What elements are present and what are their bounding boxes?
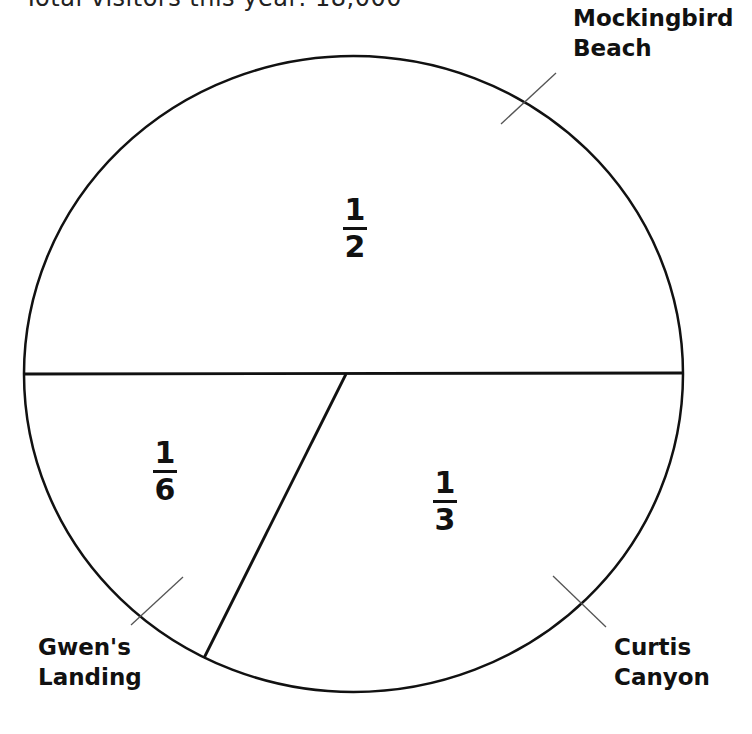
label-mockingbird-beach: Mockingbird Beach (573, 3, 734, 63)
divider-horizontal (24, 373, 683, 374)
label-line: Beach (573, 33, 734, 63)
pie-chart (0, 0, 752, 734)
fraction-denominator: 2 (335, 230, 375, 263)
fraction-numerator: 1 (343, 194, 367, 230)
fraction-gwens: 1 6 (145, 437, 185, 506)
fraction-numerator: 1 (433, 467, 457, 503)
label-line: Landing (38, 662, 142, 692)
label-gwens-landing: Gwen's Landing (38, 632, 142, 692)
label-line: Canyon (614, 662, 710, 692)
fraction-numerator: 1 (153, 437, 177, 473)
fraction-denominator: 6 (145, 473, 185, 506)
fraction-mockingbird: 1 2 (335, 194, 375, 263)
label-line: Curtis (614, 632, 710, 662)
label-line: Gwen's (38, 632, 142, 662)
label-curtis-canyon: Curtis Canyon (614, 632, 710, 692)
fraction-denominator: 3 (425, 503, 465, 536)
label-line: Mockingbird (573, 3, 734, 33)
fraction-curtis: 1 3 (425, 467, 465, 536)
